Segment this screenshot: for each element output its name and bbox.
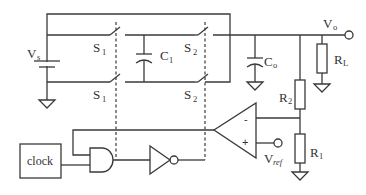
svg-text:L: L [343,58,348,68]
switch-s1-bottom: S 1 [47,74,195,104]
ground-icon [314,84,330,92]
svg-text:S: S [93,40,100,55]
plus-sign: + [242,136,248,148]
svg-text:1: 1 [102,47,106,57]
svg-text:C: C [160,48,169,63]
source-sub: s [37,52,40,62]
top-feedback-wire [47,14,230,100]
svg-text:2: 2 [193,94,197,104]
svg-text:ref: ref [273,157,284,167]
svg-text:R: R [334,52,343,67]
ground-icon [247,82,263,90]
inverter [150,146,205,174]
comparator-output-wire [73,130,214,155]
minus-sign: - [244,113,248,125]
source-label: V [27,46,37,61]
svg-text:C: C [264,54,273,69]
svg-text:o: o [273,60,277,70]
svg-text:2: 2 [193,47,197,57]
switch-s2-top: S 2 [184,27,345,57]
capacitor-co: C o [247,35,277,90]
resistor-r2: R 2 [279,35,305,134]
svg-text:R: R [279,90,288,105]
svg-text:R: R [310,145,319,160]
and-gate [90,148,150,172]
clock-block: clock [20,144,90,178]
svg-text:2: 2 [288,96,292,106]
svg-text:o: o [333,22,337,32]
capacitor-c1: C 1 [136,35,173,82]
svg-text:1: 1 [102,94,106,104]
ground-icon [39,100,55,108]
source-battery: V s [27,46,60,67]
svg-text:1: 1 [319,151,323,161]
svg-text:V: V [323,16,333,31]
svg-text:S: S [184,87,191,102]
svg-text:1: 1 [169,55,173,65]
svg-text:clock: clock [27,154,53,168]
comparator: - + [214,103,300,158]
resistor-rl: R L [314,35,348,92]
resistor-r1: R 1 [292,134,323,180]
ground-icon [292,172,308,180]
svg-text:S: S [93,87,100,102]
switch-s1-top: S 1 [47,27,195,57]
svg-text:S: S [184,40,191,55]
circuit-schematic: V s S 1 S 1 C 1 S 2 S [0,0,366,195]
